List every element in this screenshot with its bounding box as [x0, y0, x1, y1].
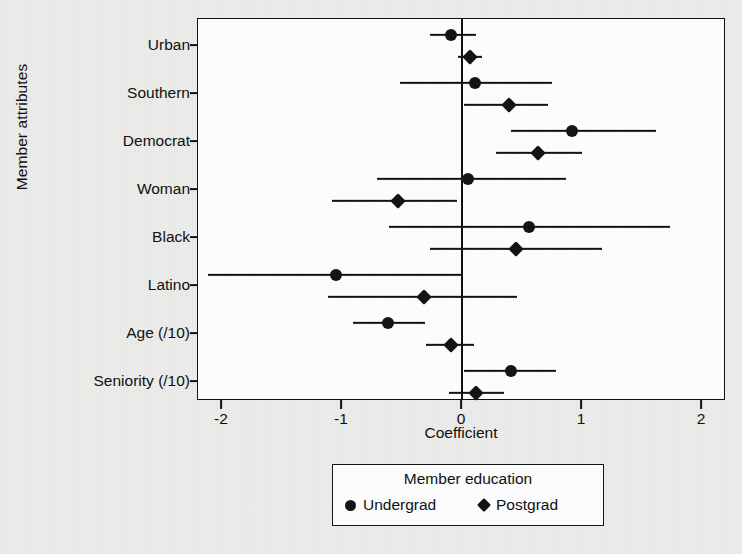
x-axis-tick: [700, 400, 702, 409]
y-axis-tick: [190, 44, 198, 46]
y-axis-tick: [190, 188, 198, 190]
y-axis-tick: [190, 332, 198, 334]
legend-label-undergrad: Undergrad: [363, 496, 436, 514]
y-axis-tick: [190, 236, 198, 238]
x-axis-tick: [220, 400, 222, 409]
point-estimate-undergrad: [445, 29, 457, 41]
y-axis-tick: [190, 380, 198, 382]
point-estimate-postgrad: [391, 193, 407, 209]
y-tick-label-democrat: Democrat: [0, 132, 190, 150]
point-estimate-undergrad: [505, 365, 517, 377]
circle-marker-icon: [345, 500, 356, 511]
point-estimate-postgrad: [469, 385, 485, 401]
y-tick-label-woman: Woman: [0, 180, 190, 198]
legend: Member education Undergrad Postgrad: [332, 464, 604, 526]
point-estimate-postgrad: [508, 241, 524, 257]
point-estimate-undergrad: [566, 125, 578, 137]
coefficient-plot-figure: Member attributes UrbanSouthernDemocratW…: [0, 0, 742, 554]
point-estimate-postgrad: [530, 145, 546, 161]
x-axis-tick: [340, 400, 342, 409]
legend-entry-postgrad: Postgrad: [479, 496, 558, 514]
x-axis-tick: [580, 400, 582, 409]
y-tick-label-age-10: Age (/10): [0, 324, 190, 342]
legend-title: Member education: [333, 470, 603, 488]
confidence-interval-undergrad: [511, 130, 656, 132]
legend-entry-undergrad: Undergrad: [345, 496, 436, 514]
point-estimate-undergrad: [462, 173, 474, 185]
y-tick-label-urban: Urban: [0, 36, 190, 54]
y-axis-tick-labels: UrbanSouthernDemocratWomanBlackLatinoAge…: [0, 0, 190, 420]
y-tick-label-latino: Latino: [0, 276, 190, 294]
point-estimate-postgrad: [463, 49, 479, 65]
point-estimate-undergrad: [330, 269, 342, 281]
point-estimate-undergrad: [469, 77, 481, 89]
x-axis-tick: [460, 400, 462, 409]
diamond-marker-icon: [477, 498, 491, 512]
y-tick-label-seniority-10: Seniority (/10): [0, 372, 190, 390]
point-estimate-postgrad: [501, 97, 517, 113]
y-axis-tick: [190, 92, 198, 94]
y-axis-tick: [190, 140, 198, 142]
x-axis-title: Coefficient: [197, 424, 725, 442]
point-estimate-undergrad: [382, 317, 394, 329]
legend-label-postgrad: Postgrad: [496, 496, 558, 514]
y-tick-label-black: Black: [0, 228, 190, 246]
point-estimate-postgrad: [416, 289, 432, 305]
zero-reference-line: [461, 19, 463, 399]
point-estimate-postgrad: [443, 337, 459, 353]
y-axis-tick: [190, 284, 198, 286]
point-estimate-undergrad: [523, 221, 535, 233]
plot-area: [197, 18, 725, 400]
y-tick-label-southern: Southern: [0, 84, 190, 102]
